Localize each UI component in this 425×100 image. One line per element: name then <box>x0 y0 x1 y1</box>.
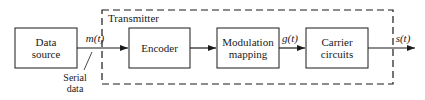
modulation-line1: Modulation <box>217 36 279 48</box>
carrier-label: Carrier circuits <box>306 36 368 60</box>
carrier-line2: circuits <box>306 48 368 60</box>
signal-m-label: m(t) <box>80 32 110 44</box>
serial-line1: Serial <box>60 72 90 83</box>
serial-line2: data <box>60 83 90 94</box>
signal-g-label: g(t) <box>275 32 305 44</box>
modulation-line2: mapping <box>217 48 279 60</box>
data-source-line1: Data <box>15 36 77 48</box>
signal-s-label: s(t) <box>388 32 418 44</box>
modulation-label: Modulation mapping <box>217 36 279 60</box>
encoder-label: Encoder <box>129 42 190 54</box>
carrier-line1: Carrier <box>306 36 368 48</box>
data-source-line2: source <box>15 48 77 60</box>
serial-data-annotation: Serial data <box>60 72 90 94</box>
transmitter-label: Transmitter <box>108 12 159 24</box>
data-source-label: Data source <box>15 36 77 60</box>
